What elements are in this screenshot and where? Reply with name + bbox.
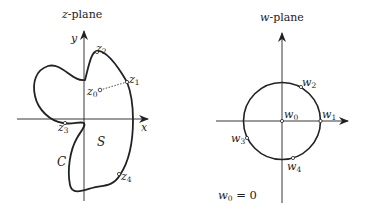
z0-z1-dashed-line: [100, 82, 127, 90]
w3-label: w3: [231, 132, 245, 146]
w-plane-panel: w-plane w0 w1 w2 w3 w4 w0 = 0: [216, 11, 348, 203]
w1-label: w1: [322, 108, 336, 122]
z2-label: z2: [95, 42, 107, 56]
z3-point: [63, 121, 66, 124]
y-axis-label: y: [70, 32, 78, 45]
z0-label: z0: [86, 85, 98, 99]
w-plane-title: w-plane: [260, 11, 304, 24]
z-plane-title: z-plane: [61, 8, 102, 21]
curve-c: [34, 51, 133, 191]
w0-label: w0: [284, 108, 298, 122]
curve-c-label: C: [57, 155, 66, 169]
z1-label: z1: [128, 73, 140, 87]
region-s-label: S: [97, 135, 105, 149]
conformal-map-diagram: z-plane y x z0 z1 z2 z3 z4 C S w-plane: [0, 0, 365, 213]
x-axis-label: x: [141, 121, 148, 134]
z4-label: z4: [120, 170, 132, 184]
w4-label: w4: [287, 160, 301, 174]
w3-point: [245, 136, 248, 139]
z0-point: [98, 88, 102, 92]
w2-label: w2: [302, 76, 316, 90]
w0-equals-zero-note: w0 = 0: [218, 188, 257, 203]
z-plane-panel: z-plane y x z0 z1 z2 z3 z4 C S: [17, 8, 148, 201]
